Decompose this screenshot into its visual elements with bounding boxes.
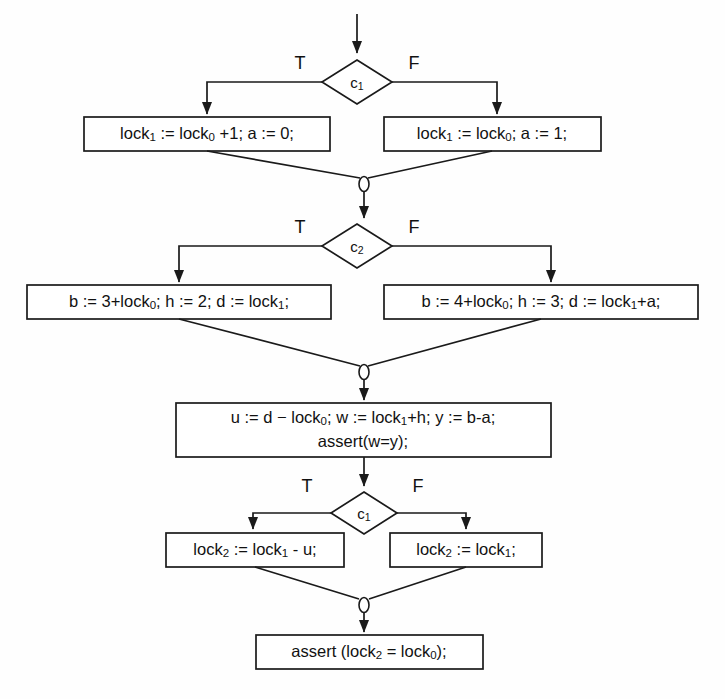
merge-node-3 xyxy=(255,567,466,632)
statement-text-u-w-y-line1: u := d − lock0; w := lock1+h; y := b-a; xyxy=(231,408,496,427)
statement-box-lock2-minus[interactable]: lock2 := lock1 - u; xyxy=(166,533,344,567)
statement-text-lock2-minus: lock2 := lock1 - u; xyxy=(193,540,316,559)
decision-node-c2[interactable]: c2 xyxy=(322,224,392,268)
statement-box-b3[interactable]: b := 3+lock0; h := 2; d := lock1; xyxy=(27,285,331,319)
statement-text-lock1-copy: lock1 := lock0; a := 1; xyxy=(417,124,567,143)
statement-box-lock1-inc[interactable]: lock1 := lock0 +1; a := 0; xyxy=(84,117,330,151)
statement-text-u-w-y-line2: assert(w=y); xyxy=(318,432,408,450)
decision-node-c1[interactable]: c1 xyxy=(322,60,392,104)
decision-node-c3[interactable]: c1 xyxy=(331,492,397,534)
statement-box-u-w-y[interactable]: u := d − lock0; w := lock1+h; y := b-a; … xyxy=(176,403,551,457)
merge-node-2 xyxy=(179,319,541,400)
statement-text-assert-final: assert (lock2 = lock0); xyxy=(291,642,446,661)
edge-c1-true xyxy=(207,82,322,114)
flowchart-canvas: c1 T F lock1 := lock0 +1; a := 0; lock1 … xyxy=(0,0,725,699)
statement-text-b4: b := 4+lock0; h := 3; d := lock1+a; xyxy=(422,292,661,311)
branch-label-true-2: T xyxy=(295,217,306,237)
edge-c3-true xyxy=(253,513,331,529)
branch-label-false-2: F xyxy=(409,217,420,237)
edge-c3-false xyxy=(397,513,466,529)
branch-label-false-1: F xyxy=(409,53,420,73)
statement-text-lock2-copy: lock2 := lock1; xyxy=(416,540,515,559)
statement-box-lock2-copy[interactable]: lock2 := lock1; xyxy=(390,533,542,567)
statement-text-lock1-inc: lock1 := lock0 +1; a := 0; xyxy=(120,124,294,143)
edge-c2-true xyxy=(179,246,322,282)
statement-box-lock1-copy[interactable]: lock1 := lock0; a := 1; xyxy=(384,117,601,151)
edge-c1-false xyxy=(392,82,497,114)
edge-c2-false xyxy=(392,246,551,282)
branch-label-false-3: F xyxy=(413,476,424,496)
branch-label-true-1: T xyxy=(295,53,306,73)
flowchart-diagram: c1 T F lock1 := lock0 +1; a := 0; lock1 … xyxy=(0,0,725,699)
merge-node-1 xyxy=(207,151,492,218)
statement-box-assert-final[interactable]: assert (lock2 = lock0); xyxy=(256,635,483,669)
statement-box-b4[interactable]: b := 4+lock0; h := 3; d := lock1+a; xyxy=(384,285,698,319)
statement-text-b3: b := 3+lock0; h := 2; d := lock1; xyxy=(69,292,289,311)
branch-label-true-3: T xyxy=(302,476,313,496)
